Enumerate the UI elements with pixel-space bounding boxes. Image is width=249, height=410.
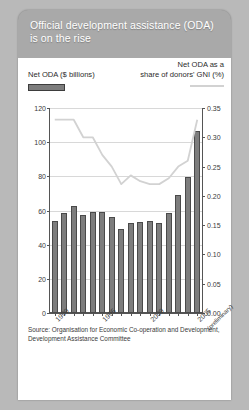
legend-item-bars: Net ODA ($ billions) [28, 70, 120, 91]
legend-item-line: Net ODA as a share of donors' GNI (%) [122, 60, 224, 87]
y2-axis-tickmark [202, 167, 205, 168]
y2-axis-tick-label: 0.30 [207, 134, 221, 141]
y-axis-tick-label: 120 [34, 105, 46, 112]
x-axis-tickmark [178, 313, 179, 316]
x-axis-tickmark [131, 313, 132, 316]
x-axis-tickmark [112, 313, 113, 316]
x-axis-tickmark [188, 313, 189, 316]
y2-axis-tick-label: 0.15 [207, 222, 221, 229]
line-series-path [55, 120, 198, 184]
page-title: Official development assistance (ODA) is… [30, 19, 219, 45]
line-series-layer [50, 108, 202, 313]
y-axis-tickmark [47, 313, 50, 314]
source-note: Source: Organisation for Economic Co-ope… [28, 326, 223, 343]
y-axis-tick-label: 100 [34, 139, 46, 146]
y2-axis-tick-label: 0.05 [207, 280, 221, 287]
x-axis-tickmark [64, 313, 65, 316]
y2-axis-tickmark [202, 137, 205, 138]
chart-panel: Net ODA ($ billions) Net ODA as a share … [18, 58, 231, 400]
y-axis-tick-label: 40 [38, 241, 46, 248]
legend-label-line-2: share of donors' GNI (%) [122, 70, 224, 80]
legend-swatch-bar-icon [28, 84, 65, 91]
y2-axis-tick-label: 0.25 [207, 163, 221, 170]
y2-axis-tickmark [202, 196, 205, 197]
y2-axis-tickmark [202, 225, 205, 226]
y-axis-tick-label: 60 [38, 207, 46, 214]
x-axis-tickmark [93, 313, 94, 316]
y2-axis-tick-label: 0.35 [207, 105, 221, 112]
legend-label-bars: Net ODA ($ billions) [28, 70, 120, 80]
card-header: Official development assistance (ODA) is… [18, 10, 231, 58]
x-axis-tickmark [121, 313, 122, 316]
x-axis-tickmark [169, 313, 170, 316]
plot-area: 0204060801001200.000.050.100.150.200.250… [49, 108, 203, 314]
plot-area-wrapper: 0204060801001200.000.050.100.150.200.250… [18, 108, 231, 400]
y-axis-tick-label: 80 [38, 173, 46, 180]
x-axis-tickmark [83, 313, 84, 316]
y2-axis-tick-label: 0.10 [207, 251, 221, 258]
legend-label-line-1: Net ODA as a [122, 60, 224, 70]
x-axis-tickmark [159, 313, 160, 316]
legend-swatch-line-icon [190, 85, 224, 87]
y2-axis-tickmark [202, 108, 205, 109]
x-axis-tickmark [74, 313, 75, 316]
chart-legend: Net ODA ($ billions) Net ODA as a share … [18, 58, 231, 108]
y2-axis-tickmark [202, 284, 205, 285]
y2-axis-tick-label: 0.20 [207, 192, 221, 199]
y2-axis-tickmark [202, 254, 205, 255]
y-axis-tick-label: 20 [38, 275, 46, 282]
x-axis-tickmark [140, 313, 141, 316]
y-axis-tick-label: 0 [42, 310, 46, 317]
chart-card: Official development assistance (ODA) is… [18, 10, 231, 400]
